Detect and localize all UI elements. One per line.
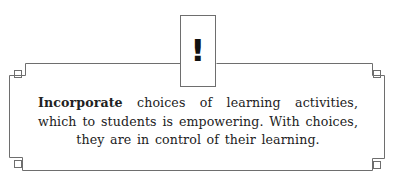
exclamation-icon: ! bbox=[190, 36, 205, 66]
alert-icon-box: ! bbox=[180, 15, 216, 87]
callout-text: Incorporate choices of learning activiti… bbox=[38, 94, 358, 150]
callout-lead-word: Incorporate bbox=[38, 95, 123, 110]
